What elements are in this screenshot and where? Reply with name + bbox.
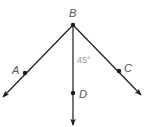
point-c	[117, 69, 121, 73]
label-b: B	[69, 7, 76, 19]
angle-label: 45°	[77, 55, 91, 65]
label-a: A	[11, 64, 19, 76]
label-c: C	[124, 62, 132, 74]
point-a	[23, 71, 27, 75]
label-d: D	[79, 88, 87, 100]
geometry-diagram: B A C D 45°	[0, 0, 144, 127]
point-d	[71, 91, 75, 95]
point-b	[71, 23, 75, 27]
ray-ba	[3, 25, 73, 97]
